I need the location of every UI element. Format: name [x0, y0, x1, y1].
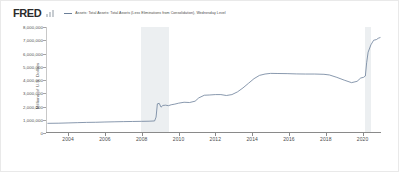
x-tick-label: 2006 [99, 136, 111, 142]
x-tick-label: 2008 [136, 136, 148, 142]
x-tick-mark [215, 133, 216, 136]
y-tick-label: 1,000,000 [23, 117, 43, 122]
y-tick-label: 8,000,000 [23, 25, 43, 30]
x-tick-mark [68, 133, 69, 136]
x-tick-mark [142, 133, 143, 136]
x-tick-mark [363, 133, 364, 136]
x-tick-label: 2020 [357, 136, 369, 142]
chart-legend: Assets: Total Assets: Total Assets (Less… [64, 11, 225, 16]
x-tick-label: 2014 [246, 136, 258, 142]
y-axis-title: Millions of U.S. Dollars [35, 63, 40, 110]
y-tick-label: 2,000,000 [23, 104, 43, 109]
y-tick-mark [43, 133, 46, 134]
series-line [48, 38, 380, 124]
y-tick-label: 5,000,000 [23, 64, 43, 69]
x-tick-label: 2004 [62, 136, 74, 142]
y-tick-label: 3,000,000 [23, 91, 43, 96]
legend-line-swatch [64, 13, 72, 14]
fred-bar-mark-icon [46, 10, 55, 17]
y-tick-label: 7,000,000 [23, 38, 43, 43]
x-tick-mark [289, 133, 290, 136]
x-tick-label: 2010 [173, 136, 185, 142]
x-tick-label: 2012 [210, 136, 222, 142]
legend-series-label: Assets: Total Assets: Total Assets (Less… [75, 11, 225, 16]
chart-header: FRED Assets: Total Assets: Total Assets … [13, 8, 226, 19]
fred-chart-figure: FRED Assets: Total Assets: Total Assets … [0, 0, 399, 172]
series-line-chart [46, 27, 381, 133]
x-tick-mark [326, 133, 327, 136]
x-tick-mark [252, 133, 253, 136]
y-tick-label: 4,000,000 [23, 78, 43, 83]
y-tick-label: 6,000,000 [23, 51, 43, 56]
x-tick-mark [179, 133, 180, 136]
x-tick-label: 2018 [320, 136, 332, 142]
x-tick-mark [105, 133, 106, 136]
fred-logo: FRED [13, 8, 41, 19]
x-tick-label: 2016 [283, 136, 295, 142]
plot-region: 01,000,0002,000,0003,000,0004,000,0005,0… [46, 27, 381, 133]
